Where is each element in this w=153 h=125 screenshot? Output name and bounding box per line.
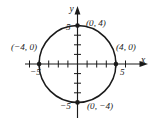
x-axis-label: x bbox=[141, 56, 145, 66]
point-marker-left bbox=[37, 62, 42, 67]
circle-graph-figure: (0, 4) (4, 0) (0, −4) (−4, 0) 5 −5 −5 5 … bbox=[0, 0, 153, 125]
y-axis-label: y bbox=[70, 5, 74, 15]
point-marker-right bbox=[114, 62, 119, 67]
point-label-left: (−4, 0) bbox=[11, 43, 37, 52]
coordinate-plane-svg bbox=[0, 0, 153, 125]
point-marker-bottom bbox=[75, 100, 80, 105]
point-label-bottom: (0, −4) bbox=[87, 102, 113, 111]
y-tick-label-minus5: −5 bbox=[60, 102, 71, 111]
point-label-top: (0, 4) bbox=[86, 19, 106, 28]
y-tick-label-5: 5 bbox=[66, 23, 71, 32]
point-label-right: (4, 0) bbox=[116, 43, 136, 52]
x-tick-label-5: 5 bbox=[120, 68, 125, 77]
point-marker-top bbox=[75, 23, 80, 28]
y-axis-arrowhead bbox=[75, 6, 81, 15]
x-tick-label-minus5: −5 bbox=[30, 68, 41, 77]
